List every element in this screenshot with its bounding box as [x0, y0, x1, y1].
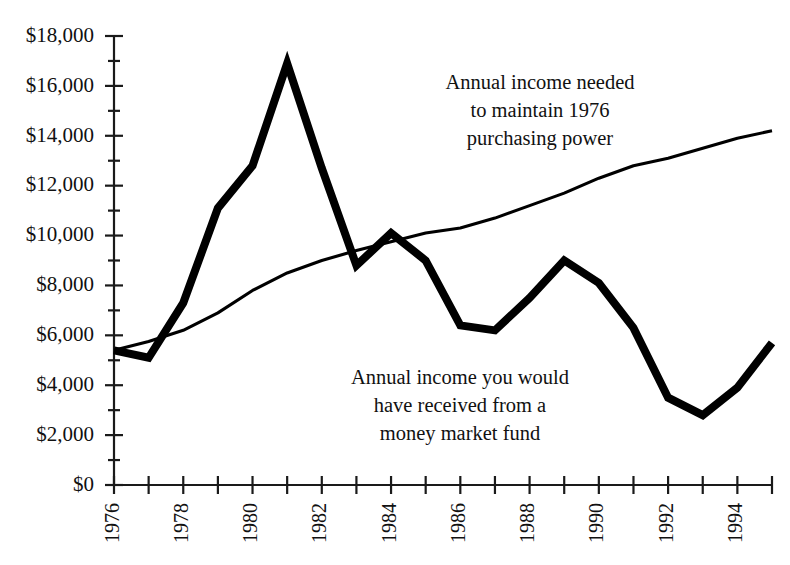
x-axis-tick-label: 1994	[724, 503, 746, 543]
series-line-money-market	[114, 63, 772, 415]
x-axis-tick-label: 1980	[239, 503, 261, 543]
x-axis-tick-label: 1978	[170, 503, 192, 543]
lower-annotation: Annual income you wouldhave received fro…	[351, 366, 569, 445]
line-chart: $0$2,000$4,000$6,000$8,000$10,000$12,000…	[0, 0, 790, 565]
annotation-line: money market fund	[380, 422, 541, 445]
annotation-line: have received from a	[374, 394, 546, 416]
x-axis-tick-label: 1984	[378, 503, 400, 543]
y-axis: $0$2,000$4,000$6,000$8,000$10,000$12,000…	[26, 23, 123, 496]
y-axis-tick-label: $8,000	[36, 272, 94, 296]
y-axis-tick-label: $14,000	[26, 123, 94, 147]
annotation-line: purchasing power	[467, 127, 613, 150]
series-lines	[114, 63, 772, 415]
chart-annotations: Annual income neededto maintain 1976purc…	[351, 71, 635, 445]
series-line-purchasing-power	[114, 131, 772, 351]
x-axis-tick-label: 1986	[447, 503, 469, 543]
y-axis-tick-label: $16,000	[26, 73, 94, 97]
y-axis-tick-label: $12,000	[26, 172, 94, 196]
upper-annotation: Annual income neededto maintain 1976purc…	[446, 71, 635, 150]
x-axis-tick-label: 1976	[101, 503, 123, 543]
y-axis-tick-label: $18,000	[26, 23, 94, 47]
x-axis-tick-label: 1992	[655, 503, 677, 543]
y-axis-tick-label: $6,000	[36, 322, 94, 346]
annotation-line: to maintain 1976	[471, 99, 610, 121]
x-axis-tick-label: 1990	[585, 503, 607, 543]
annotation-line: Annual income needed	[446, 71, 635, 93]
y-axis-tick-label: $10,000	[26, 222, 94, 246]
x-axis-tick-label: 1988	[516, 503, 538, 543]
x-axis: 1976197819801982198419861988199019921994	[101, 476, 772, 543]
y-axis-tick-label: $2,000	[36, 422, 94, 446]
x-axis-tick-label: 1982	[308, 503, 330, 543]
chart-container: $0$2,000$4,000$6,000$8,000$10,000$12,000…	[0, 0, 790, 565]
y-axis-tick-label: $4,000	[36, 372, 94, 396]
y-axis-tick-label: $0	[73, 472, 94, 496]
annotation-line: Annual income you would	[351, 366, 569, 389]
